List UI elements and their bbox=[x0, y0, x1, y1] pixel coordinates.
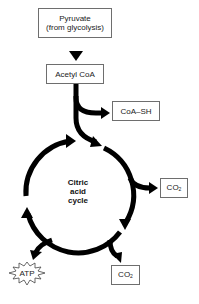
cycle-center-label: Citric acid cycle bbox=[66, 178, 90, 205]
pyruvate-sublabel: (from glycolysis) bbox=[46, 23, 104, 32]
co2-right-label: CO2 bbox=[167, 183, 182, 194]
co2-bottom-box: CO2 bbox=[111, 265, 140, 285]
pyruvate-box: Pyruvate (from glycolysis) bbox=[38, 8, 112, 38]
coa-sh-label: CoA–SH bbox=[120, 107, 151, 116]
coa-sh-box: CoA–SH bbox=[112, 101, 160, 121]
cycle-arrowhead-top bbox=[66, 134, 76, 148]
cycle-label-line2: acid bbox=[66, 187, 90, 196]
arrow-cycle-to-atp bbox=[30, 240, 52, 260]
cycle-arc-left-top bbox=[26, 141, 70, 196]
arrow-pyruvate-to-acetyl-coa bbox=[69, 38, 83, 61]
co2-right-box: CO2 bbox=[160, 178, 188, 198]
acetyl-coa-label: Acetyl CoA bbox=[55, 70, 95, 79]
cycle-arrowhead-right bbox=[119, 219, 131, 230]
cycle-arc-right bbox=[104, 148, 134, 222]
cycle-label-line3: cycle bbox=[66, 196, 90, 205]
pyruvate-label: Pyruvate bbox=[59, 14, 91, 23]
co2-bottom-label: CO2 bbox=[118, 270, 133, 281]
arrow-acetyl-coa-branches bbox=[76, 84, 110, 147]
diagram-canvas bbox=[0, 0, 199, 304]
atp-label: ATP bbox=[14, 269, 40, 278]
arrow-cycle-to-co2-bottom bbox=[110, 240, 122, 263]
cycle-arrowhead-left bbox=[21, 207, 33, 218]
cycle-label-line1: Citric bbox=[66, 178, 90, 187]
acetyl-coa-box: Acetyl CoA bbox=[46, 64, 104, 84]
